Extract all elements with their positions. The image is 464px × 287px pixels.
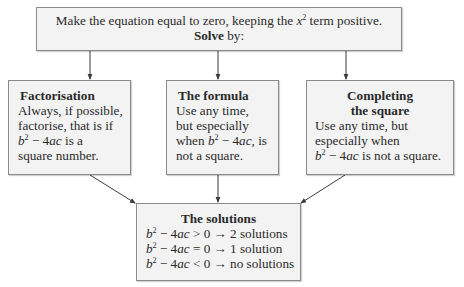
solve-by-line: Solve by: [37,28,401,43]
instruction-box: Make the equation equal to zero, keeping… [36,7,402,51]
solution-row: b2 − 4ac < 0 → no solutions [146,256,300,271]
solution-row: b2 − 4ac = 0 → 1 solution [146,241,300,256]
arrow-factorisation-to-solutions [90,175,135,203]
completing-square-box: Completing the square Use any time, but … [306,80,454,175]
discriminant-expression: b2 − 4ac is a [18,133,130,148]
factorisation-box: Factorisation Always, if possible, facto… [8,80,131,175]
solutions-title: The solutions [146,211,300,226]
discriminant-expression: when b2 − 4ac, is [176,133,278,148]
arrow-completing-to-solutions [301,175,345,203]
formula-title: The formula [176,88,278,103]
instruction-line: Make the equation equal to zero, keeping… [37,13,401,28]
formula-box: The formula Use any time, but especially… [166,80,279,175]
solution-row: b2 − 4ac > 0 → 2 solutions [146,226,300,241]
solutions-box: The solutions b2 − 4ac > 0 → 2 solutions… [136,203,301,281]
discriminant-expression: b2 − 4ac is not a square. [315,148,453,163]
completing-square-title: Completing [315,88,453,103]
factorisation-title: Factorisation [18,88,130,103]
